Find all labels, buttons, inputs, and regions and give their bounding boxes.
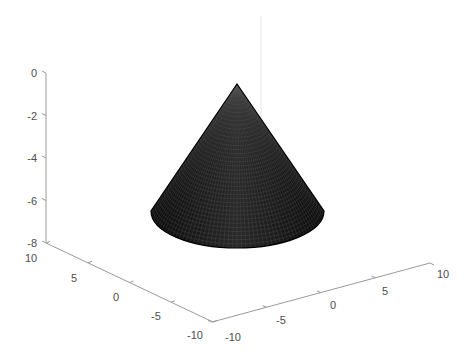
cone-surface bbox=[151, 84, 325, 248]
x-tick-label: -10 bbox=[225, 331, 241, 343]
y-axis-tick-labels: 10 5 0 -5 -10 bbox=[25, 252, 203, 341]
z-tick-label: -6 bbox=[27, 195, 37, 207]
z-tick-label: -8 bbox=[27, 237, 37, 249]
z-tick-label: -2 bbox=[27, 110, 37, 122]
x-tick-label: -5 bbox=[276, 314, 286, 326]
y-tick-label: -5 bbox=[151, 310, 161, 322]
z-axis-tick-labels: 0 -2 -4 -6 -8 bbox=[27, 67, 37, 249]
x-tick-label: 0 bbox=[330, 299, 336, 311]
y-tick-label: 5 bbox=[71, 272, 77, 284]
z-tick-label: 0 bbox=[31, 67, 37, 79]
x-tick-label: 10 bbox=[437, 268, 449, 280]
x-axis-ticks bbox=[208, 263, 434, 322]
chart-figure: 0 -2 -4 -6 -8 10 5 0 -5 -10 bbox=[0, 0, 469, 358]
y-tick-label: 0 bbox=[113, 291, 119, 303]
y-tick-label: 10 bbox=[25, 252, 37, 264]
x-axis-tick-labels: -10 -5 0 5 10 bbox=[225, 268, 449, 343]
x-tick-label: 5 bbox=[382, 285, 388, 297]
y-tick-label: -10 bbox=[187, 329, 203, 341]
z-tick-label: -4 bbox=[27, 152, 37, 164]
z-axis-ticks bbox=[42, 71, 46, 243]
